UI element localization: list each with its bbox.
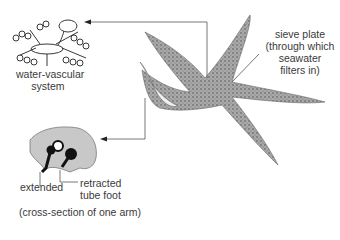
sieve-plate-label-line3: seawater [258, 52, 340, 64]
arm-cross-section-illustration [30, 127, 96, 172]
sieve-plate-label-line4: filters in) [258, 64, 340, 76]
sieve-plate-label-line1: sieve plate [258, 28, 340, 40]
retracted-label-line2: tube foot [80, 189, 121, 201]
water-vascular-system-illustration [13, 20, 89, 66]
extended-label: extended [20, 181, 63, 193]
water-vascular-label-line1: water-vascular [16, 68, 80, 80]
sieve-plate-label-line2: (through which [258, 40, 340, 52]
retracted-label-line1: retracted [80, 177, 121, 189]
cross-section-caption: (cross-section of one arm) [19, 206, 141, 218]
water-vascular-label-line2: system [16, 80, 80, 92]
